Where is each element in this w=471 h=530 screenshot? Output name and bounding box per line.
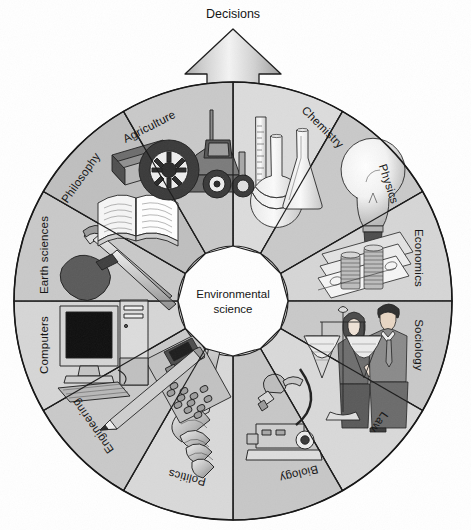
label-economics: Economics <box>413 229 425 287</box>
label-earth-sciences: Earth sciences <box>38 216 50 294</box>
environmental-science-wheel: Decisions <box>0 0 471 530</box>
diagram-canvas: Decisions <box>0 0 471 530</box>
center-label-line1: Environmental <box>196 288 270 300</box>
label-sociology: Sociology <box>413 319 425 371</box>
center-label-line2: science <box>214 303 253 315</box>
label-computers: Computers <box>38 316 50 374</box>
decisions-label: Decisions <box>206 7 260 21</box>
